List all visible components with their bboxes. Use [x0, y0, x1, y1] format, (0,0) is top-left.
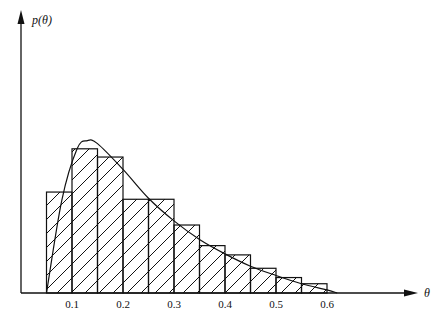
- x-tick-label: 0.5: [269, 298, 283, 310]
- histogram-bar: [72, 149, 98, 293]
- histogram-bar: [200, 246, 226, 293]
- x-tick-label: 0.3: [167, 298, 181, 310]
- histogram-bar: [149, 199, 175, 293]
- x-tick-label: 0.4: [218, 298, 232, 310]
- histogram-bar: [123, 199, 149, 293]
- histogram-bar: [47, 192, 73, 293]
- x-tick-label: 0.2: [116, 298, 130, 310]
- histogram-chart: p(θ) θ 0.10.20.30.40.50.6: [0, 0, 431, 322]
- histogram-bar: [251, 268, 277, 293]
- x-tick-label: 0.1: [65, 298, 79, 310]
- y-axis-arrow-icon: [18, 10, 25, 24]
- x-axis-label: θ: [424, 286, 430, 300]
- histogram-bar: [174, 225, 200, 293]
- x-tick-label: 0.6: [320, 298, 334, 310]
- x-tick-labels: 0.10.20.30.40.50.6: [65, 298, 334, 310]
- y-axis-label: p(θ): [31, 13, 52, 27]
- histogram-bar: [98, 157, 124, 293]
- x-axis-arrow-icon: [404, 290, 418, 297]
- histogram-bars: [47, 149, 328, 293]
